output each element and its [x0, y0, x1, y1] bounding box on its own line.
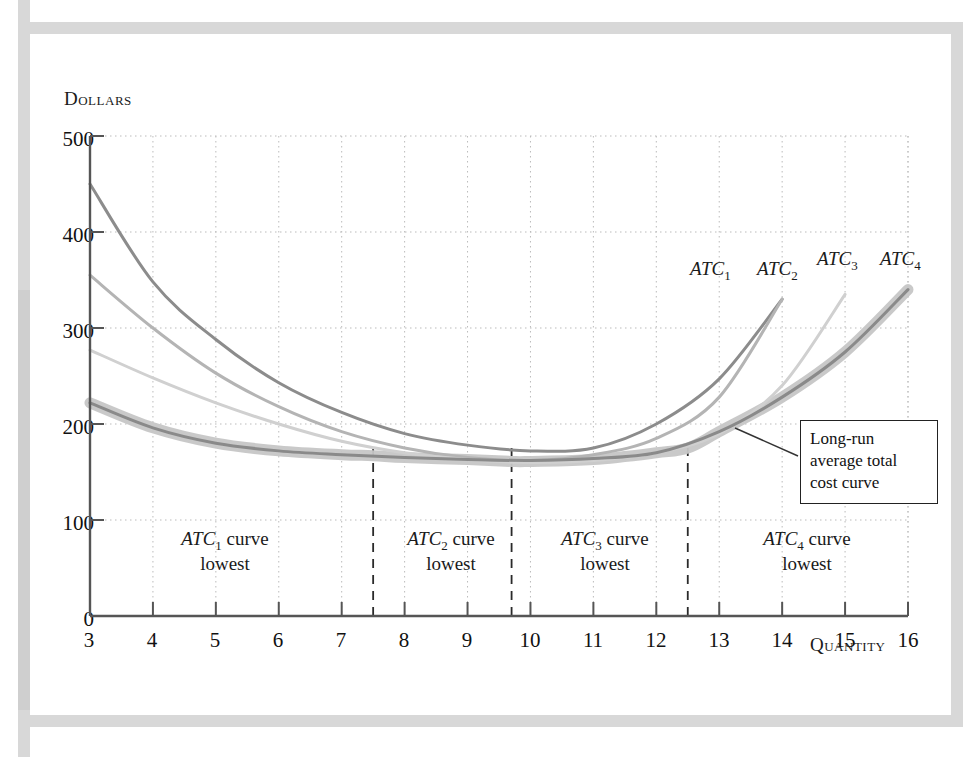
figure-root: Dollars Quantity 500 400 300 200 100 0 3… — [0, 0, 979, 757]
region-label-atc3-lowest: ATC3 curvelowest — [520, 528, 690, 576]
callout-line-3: cost curve — [810, 472, 928, 494]
callout-line-2: average total — [810, 450, 928, 472]
region-label-atc2-lowest: ATC2 curvelowest — [366, 528, 536, 576]
region-label-atc1-lowest: ATC1 curvelowest — [140, 528, 310, 576]
chart-canvas — [0, 0, 979, 757]
curve-label-atc3: ATC3 — [817, 248, 858, 274]
curve-label-atc2: ATC2 — [757, 258, 798, 284]
curve-group — [90, 184, 908, 462]
callout-line-1: Long-run — [810, 428, 928, 450]
curve-label-atc4: ATC4 — [880, 248, 921, 274]
region-label-atc4-lowest: ATC4 curvelowest — [722, 528, 892, 576]
curve-label-atc1: ATC1 — [690, 258, 731, 284]
callout-leader-line — [735, 428, 798, 456]
callout-box: Long-run average total cost curve — [800, 420, 938, 504]
